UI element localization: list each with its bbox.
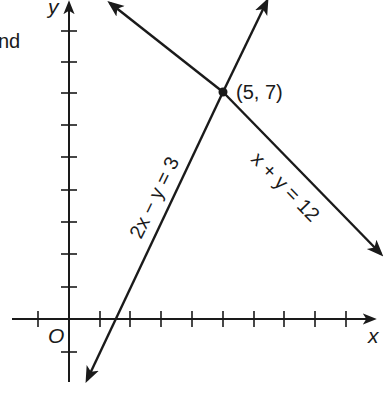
line-x-plus-y-eq-12 [110, 3, 223, 92]
line-2x-minus-y-eq-3 [87, 92, 223, 380]
y-axis-label: y [46, 0, 60, 18]
coordinate-graph: y x O (5, 7) 2x − y = 3 x + y = 12 [0, 0, 386, 393]
line-x-plus-y-eq-12-lower [223, 92, 381, 254]
x-axis-label: x [367, 324, 380, 347]
origin-label: O [48, 324, 64, 347]
intersection-point [219, 88, 228, 97]
line-2x-minus-y-eq-3-upper [223, 1, 267, 92]
intersection-label: (5, 7) [236, 81, 283, 103]
line-label-x-plus-y-eq-12: x + y = 12 [247, 147, 324, 225]
